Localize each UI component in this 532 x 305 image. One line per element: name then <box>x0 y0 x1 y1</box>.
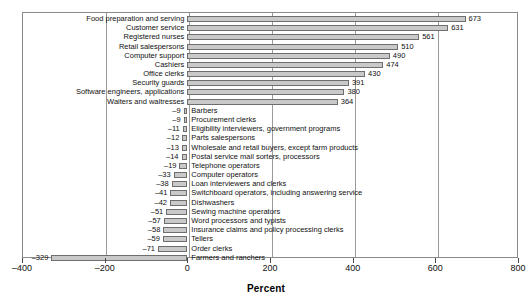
bar <box>174 172 188 178</box>
bar-category-label: Insurance claims and policy processing c… <box>191 225 343 234</box>
bar-value-label: –11 <box>168 124 180 133</box>
bar <box>184 108 188 114</box>
bar-category-label: Food preparation and serving <box>86 14 184 23</box>
bar-row: –41Switchboard operators, including answ… <box>0 189 532 198</box>
bar-category-label: Procurement clerks <box>191 115 256 124</box>
bar-category-label: Parts salespersons <box>191 133 255 142</box>
bar <box>184 117 188 123</box>
bar <box>183 126 188 132</box>
bar-value-label: 430 <box>368 69 381 78</box>
bar-category-label: Telephone operators <box>191 161 259 170</box>
bar-value-label: –51 <box>151 207 164 216</box>
bar <box>187 89 344 95</box>
bar-value-label: –33 <box>158 170 171 179</box>
bar-row: 430Office clerks <box>0 70 532 79</box>
bar-category-label: Dishwashers <box>191 198 234 207</box>
horizontal-bar-chart: 673Food preparation and serving631Custom… <box>0 0 532 305</box>
bar-row: 561Registered nurses <box>0 33 532 42</box>
bar-value-label: –41 <box>155 188 168 197</box>
bar <box>187 44 398 50</box>
bar-value-label: –58 <box>148 225 161 234</box>
bar-value-label: 673 <box>469 14 482 23</box>
bar <box>182 154 188 160</box>
bar <box>187 71 365 77</box>
bar-category-label: Word processors and typists <box>191 216 285 225</box>
x-axis-tick-label: 800 <box>510 263 525 273</box>
x-axis-tick-label: 200 <box>262 263 277 273</box>
bar <box>187 80 349 86</box>
bar <box>187 16 465 22</box>
bar-category-label: Sewing machine operators <box>191 207 280 216</box>
bar-value-label: –12 <box>167 133 180 142</box>
bar <box>166 209 187 215</box>
bar-value-label: –42 <box>154 198 167 207</box>
x-axis-tick-label: –400 <box>12 263 32 273</box>
bar-value-label: –59 <box>147 234 160 243</box>
x-axis-tick-label: 0 <box>185 263 190 273</box>
x-axis-tick-label: –200 <box>95 263 115 273</box>
bar-category-label: Loan interviewers and clerks <box>191 179 286 188</box>
bar <box>164 218 188 224</box>
bar-value-label: –14 <box>166 152 179 161</box>
bar-row: 631Customer service <box>0 24 532 33</box>
bar-category-label: Tellers <box>191 234 213 243</box>
bar <box>187 34 419 40</box>
bar-category-label: Computer operators <box>191 170 258 179</box>
bar-row: –14Postal service mail sorters, processo… <box>0 153 532 162</box>
bar-value-label: 364 <box>341 97 354 106</box>
bar-row: 474Cashiers <box>0 61 532 70</box>
bar <box>170 190 187 196</box>
bar-value-label: –19 <box>164 161 177 170</box>
bar-category-label: Computer support <box>124 51 184 60</box>
x-axis-label: Percent <box>0 283 532 294</box>
bar-row: –11Eligibility interviewers, government … <box>0 125 532 134</box>
bar-category-label: Retail salespersons <box>119 42 184 51</box>
bar-category-label: Cashiers <box>155 60 185 69</box>
bar <box>182 145 187 151</box>
bar-category-label: Office clerks <box>143 69 184 78</box>
bar <box>187 53 390 59</box>
bar-category-label: Order clerks <box>191 244 232 253</box>
bar <box>158 246 187 252</box>
bar-row: 364Waiters and waitresses <box>0 98 532 107</box>
bar-value-label: 490 <box>393 51 406 60</box>
bar-row: –9Barbers <box>0 107 532 116</box>
bar-value-label: 510 <box>401 42 414 51</box>
bar-category-label: Wholesale and retail buyers, except farm… <box>191 143 358 152</box>
bar-value-label: –57 <box>148 216 161 225</box>
bar <box>163 236 187 242</box>
bar-category-label: Customer service <box>126 23 184 32</box>
bar-value-label: 474 <box>386 60 399 69</box>
bar-row: 380Software engineers, applications <box>0 88 532 97</box>
bar-row: –19Telephone operators <box>0 162 532 171</box>
bar <box>182 135 187 141</box>
bar-row: –58Insurance claims and policy processin… <box>0 226 532 235</box>
bar-value-label: –38 <box>156 179 169 188</box>
bar-category-label: Security guards <box>132 78 184 87</box>
bar-value-label: 631 <box>451 23 464 32</box>
bar-category-label: Eligibility interviewers, government pro… <box>191 124 340 133</box>
bar-category-label: Barbers <box>191 106 217 115</box>
bar-row: –71Order clerks <box>0 245 532 254</box>
bar-category-label: Switchboard operators, including answeri… <box>191 188 362 197</box>
bar <box>187 62 383 68</box>
bar-row: 490Computer support <box>0 52 532 61</box>
bar-category-label: Software engineers, applications <box>76 87 184 96</box>
bar <box>170 200 187 206</box>
bar-value-label: 391 <box>352 78 365 87</box>
bar <box>172 181 188 187</box>
bar <box>187 25 448 31</box>
bar-value-label: –9 <box>172 106 180 115</box>
bar <box>187 99 337 105</box>
bar-category-label: Waiters and waitresses <box>107 97 184 106</box>
bar-value-label: 380 <box>347 87 360 96</box>
bar <box>163 227 187 233</box>
bar-value-label: –13 <box>166 143 179 152</box>
x-axis-tick-label: 600 <box>428 263 443 273</box>
bar-row: –59Tellers <box>0 235 532 244</box>
bar-row: 510Retail salespersons <box>0 43 532 52</box>
bar-category-label: Postal service mail sorters, processors <box>191 152 319 161</box>
bar-value-label: –71 <box>142 244 155 253</box>
bar-category-label: Registered nurses <box>123 32 184 41</box>
x-axis-tick-labels: –400–2000200400600800 <box>0 263 532 277</box>
